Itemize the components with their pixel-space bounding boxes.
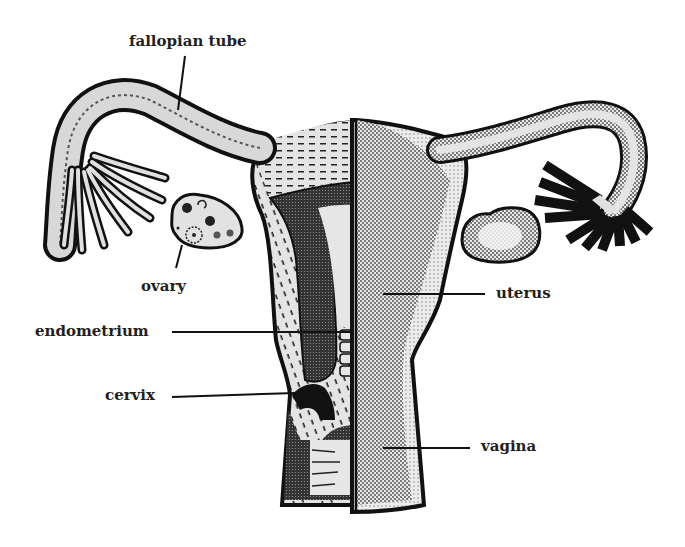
reproductive-system-diagram <box>0 0 685 547</box>
label-endometrium: endometrium <box>35 324 149 339</box>
label-uterus: uterus <box>496 286 551 301</box>
label-cervix: cervix <box>105 388 155 403</box>
uterus-right-external <box>352 120 466 512</box>
left-ovary <box>172 194 243 248</box>
right-ovary <box>462 208 540 263</box>
label-fallopian-tube: fallopian tube <box>129 34 246 49</box>
label-vagina: vagina <box>481 439 536 454</box>
uterus-left-section <box>250 120 358 505</box>
label-ovary: ovary <box>141 279 186 294</box>
